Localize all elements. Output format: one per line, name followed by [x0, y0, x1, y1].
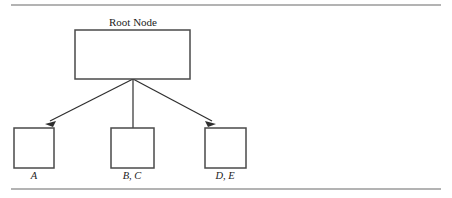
edge-group: [45, 79, 216, 128]
edge-root-to-a: [50, 79, 133, 121]
child-node-box-a[interactable]: [14, 128, 54, 168]
root-node-box[interactable]: [75, 30, 190, 79]
child-node-label-a: A: [30, 170, 38, 181]
child-node-label-bc: B, C: [123, 170, 143, 181]
root-node-label: Root Node: [109, 16, 157, 28]
tree-diagram-figure: Root Node A B, C D, E: [0, 0, 452, 198]
child-node-box-bc[interactable]: [111, 128, 154, 168]
diagram-canvas: Root Node A B, C D, E: [0, 0, 452, 198]
arrowhead-a: [45, 121, 56, 127]
child-node-box-de[interactable]: [205, 128, 246, 168]
child-node-label-de: D, E: [214, 170, 235, 181]
arrowhead-de: [205, 121, 216, 127]
edge-root-to-de: [133, 79, 212, 121]
